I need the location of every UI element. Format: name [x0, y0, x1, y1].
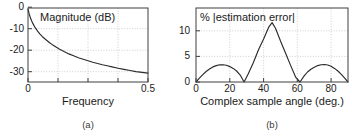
figure-container: 0 -10 -20 -30 0 0.5 Magnitude (dB) Frequ…: [0, 0, 352, 138]
panel-b: 10 5 0 0 20 40 60 80 % |estimation error…: [176, 0, 352, 138]
panel-a-caption: (a): [28, 120, 148, 130]
panel-b-ytick-5: 5: [164, 51, 190, 61]
panel-a: 0 -10 -20 -30 0 0.5 Magnitude (dB) Frequ…: [0, 0, 176, 138]
panel-a-ytick-0: 0: [2, 2, 24, 12]
panel-a-title: Magnitude (dB): [40, 12, 115, 23]
panel-a-ytick-3: -30: [2, 67, 24, 77]
panel-a-ytick-2: -20: [2, 45, 24, 55]
panel-b-xtick-80: 80: [321, 84, 341, 94]
panel-b-xlabel: Complex sample angle (deg.): [182, 96, 352, 107]
panel-b-ytick-10: 10: [164, 26, 190, 36]
panel-a-xtick-4: 0.5: [134, 84, 162, 94]
panel-b-xtick-40: 40: [254, 84, 274, 94]
panel-a-xlabel: Frequency: [28, 96, 148, 107]
panel-b-xtick-0: 0: [186, 84, 206, 94]
panel-a-xtick-0: 0: [18, 84, 38, 94]
panel-a-ytick-1: -10: [2, 24, 24, 34]
panel-b-title: % |estimation error|: [200, 12, 295, 23]
panel-b-xtick-20: 20: [220, 84, 240, 94]
panel-b-curve: [196, 23, 348, 82]
panel-b-caption: (b): [196, 120, 348, 130]
panel-b-xtick-60: 60: [287, 84, 307, 94]
